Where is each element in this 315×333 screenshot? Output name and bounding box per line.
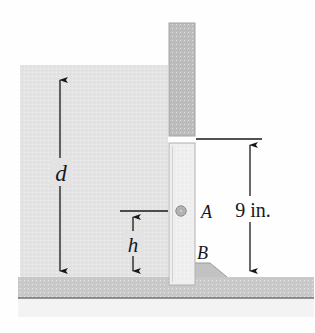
pin-inner-circle [179,209,183,213]
ground-band [18,277,314,317]
upper-bar-texture [169,23,195,136]
point-label-a: A [200,202,213,222]
wall-texture [20,65,168,277]
ground-texture [18,277,314,298]
upper-bar [169,23,195,136]
dimension-nine-label: 9 in. [235,199,271,221]
dimension-h-label: h [128,233,139,257]
figure-canvas: d h 9 in. A B [0,0,315,333]
wall-block [20,65,168,277]
pin-at-a [176,206,186,216]
point-label-b: B [197,243,208,263]
dimension-d-label: d [55,161,67,186]
ground-shadow [18,299,314,317]
engineering-figure: d h 9 in. A B [0,0,315,333]
